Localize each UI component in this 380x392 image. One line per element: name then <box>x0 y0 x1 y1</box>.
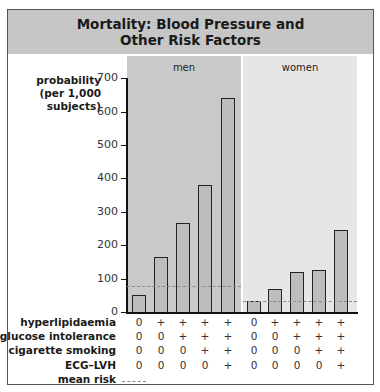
row-label: cigarette smoking <box>8 344 116 356</box>
table-cell: + <box>334 316 348 328</box>
table-cell: + <box>268 316 282 328</box>
x-axis-line <box>126 312 358 314</box>
row-label: ECG–LVH <box>65 359 116 371</box>
table-cell: 0 <box>268 330 282 342</box>
bar-women-1 <box>247 301 261 312</box>
table-cell: 0 <box>268 344 282 356</box>
table-cell: + <box>312 316 326 328</box>
table-cell: 0 <box>132 330 146 342</box>
y-tick-label: 600 <box>88 105 118 118</box>
table-cell: 0 <box>198 359 212 371</box>
y-tick-label: 700 <box>88 71 118 84</box>
mean-risk-line-men <box>127 286 241 287</box>
panel-label-women: women <box>243 62 357 73</box>
bar-women-3 <box>290 272 304 312</box>
y-tick-mark <box>121 178 126 179</box>
table-cell: 0 <box>247 330 261 342</box>
chart-title: Mortality: Blood Pressure and Other Risk… <box>71 16 311 48</box>
y-tick-mark <box>121 145 126 146</box>
table-cell: 0 <box>132 316 146 328</box>
y-tick-mark <box>121 112 126 113</box>
chart-header: Mortality: Blood Pressure and Other Risk… <box>8 10 373 54</box>
row-label: hyperlipidaemia <box>20 316 116 328</box>
bar-men-5 <box>221 98 235 312</box>
table-cell: + <box>198 316 212 328</box>
table-cell: 0 <box>312 359 326 371</box>
table-cell: 0 <box>176 359 190 371</box>
table-cell: 0 <box>247 344 261 356</box>
title-line-1: Mortality: Blood Pressure and <box>71 16 311 32</box>
bar-men-3 <box>176 223 190 312</box>
table-cell: + <box>334 344 348 356</box>
legend-mean-risk-label: mean risk <box>58 373 116 385</box>
table-cell: + <box>154 316 168 328</box>
y-tick-label: 200 <box>88 238 118 251</box>
table-cell: 0 <box>154 359 168 371</box>
table-cell: 0 <box>247 316 261 328</box>
table-cell: + <box>334 359 348 371</box>
table-cell: + <box>221 344 235 356</box>
y-tick-label: 500 <box>88 138 118 151</box>
table-cell: 0 <box>132 344 146 356</box>
table-cell: 0 <box>154 344 168 356</box>
table-cell: + <box>290 330 304 342</box>
bar-men-1 <box>132 295 146 312</box>
table-cell: + <box>334 330 348 342</box>
bar-women-5 <box>334 230 348 312</box>
table-cell: + <box>312 330 326 342</box>
panel-label-men: men <box>127 62 241 73</box>
table-cell: 0 <box>290 344 304 356</box>
table-cell: + <box>198 344 212 356</box>
table-cell: + <box>176 330 190 342</box>
table-cell: + <box>221 316 235 328</box>
bar-women-4 <box>312 270 326 312</box>
table-cell: 0 <box>268 359 282 371</box>
y-tick-label: 300 <box>88 205 118 218</box>
bar-men-2 <box>154 257 168 312</box>
table-cell: + <box>198 330 212 342</box>
y-tick-label: 100 <box>88 272 118 285</box>
table-cell: + <box>176 316 190 328</box>
mean-risk-line-women <box>243 301 357 302</box>
y-axis-line <box>126 78 128 313</box>
bar-men-4 <box>198 185 212 312</box>
table-cell: 0 <box>154 330 168 342</box>
table-cell: 0 <box>176 344 190 356</box>
table-cell: 0 <box>132 359 146 371</box>
chart-frame: Mortality: Blood Pressure and Other Risk… <box>7 9 374 385</box>
y-label-line-2: (per 1,000 <box>36 87 101 100</box>
y-tick-label: 400 <box>88 171 118 184</box>
table-cell: + <box>312 344 326 356</box>
title-line-2: Other Risk Factors <box>71 32 311 48</box>
y-tick-mark <box>121 279 126 280</box>
table-cell: 0 <box>290 359 304 371</box>
y-tick-mark <box>121 245 126 246</box>
row-label: glucose intolerance <box>0 330 116 342</box>
table-cell: + <box>290 316 304 328</box>
y-tick-mark <box>121 212 126 213</box>
y-tick-mark <box>121 78 126 79</box>
table-cell: + <box>221 330 235 342</box>
legend-mean-risk-dash <box>122 381 146 382</box>
table-cell: 0 <box>247 359 261 371</box>
table-cell: + <box>221 359 235 371</box>
